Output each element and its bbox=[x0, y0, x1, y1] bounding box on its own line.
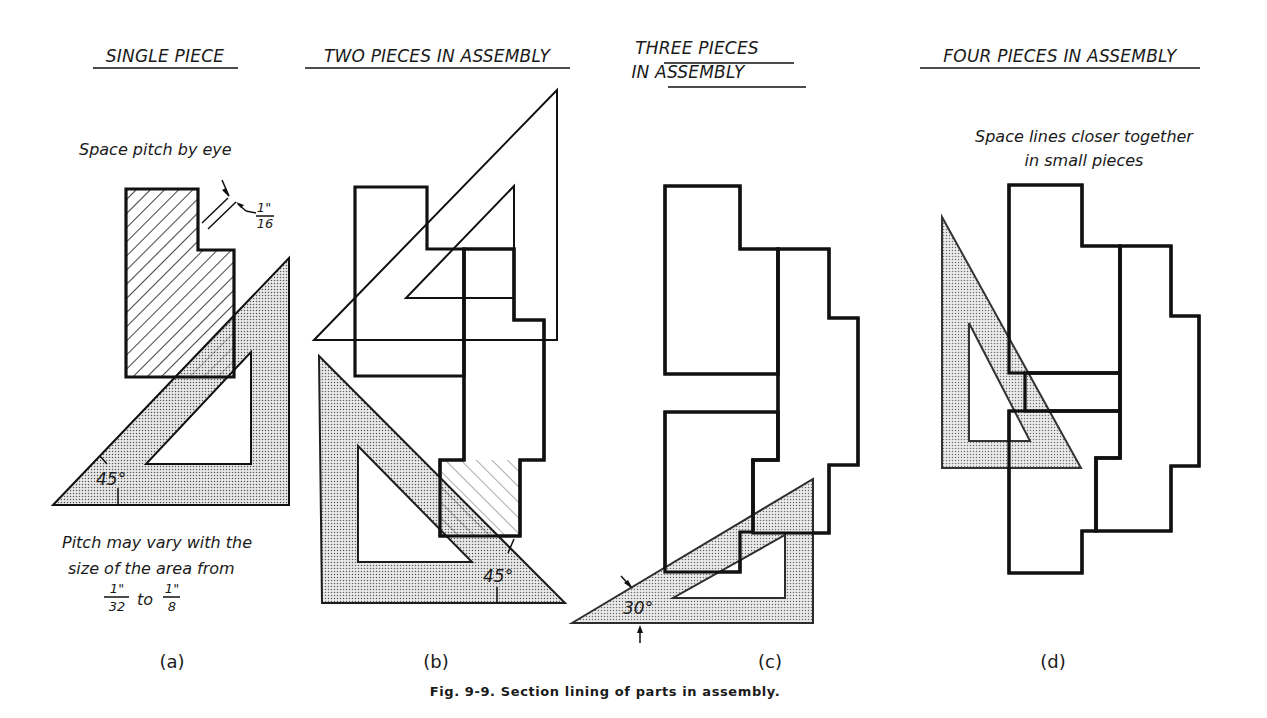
panel-a: SINGLE PIECE Space pitch by eye 1" 16 45… bbox=[53, 46, 289, 672]
60-degree-triangle bbox=[942, 217, 1081, 468]
angle-label: 45° bbox=[96, 469, 126, 489]
pitch-num: 1" bbox=[257, 200, 271, 215]
panel-label: (a) bbox=[159, 651, 184, 672]
callout-line: Space lines closer together bbox=[975, 127, 1194, 146]
footnote-line: Pitch may vary with the bbox=[62, 533, 252, 552]
triangle-outline bbox=[314, 90, 557, 340]
angle-label: 45° bbox=[483, 566, 513, 586]
callout-line: in small pieces bbox=[1025, 151, 1144, 170]
arrow-icon bbox=[222, 180, 229, 196]
pitch-range: 1" 32 to 1" 8 bbox=[104, 581, 180, 614]
panel-d-title: FOUR PIECES IN ASSEMBLY bbox=[943, 46, 1178, 66]
pitch-dimension: 1" 16 bbox=[202, 180, 274, 231]
hatched-part-3 bbox=[1009, 411, 1120, 573]
figure-caption: Fig. 9-9. Section lining of parts in ass… bbox=[430, 684, 781, 699]
hatched-part-1 bbox=[1009, 185, 1120, 373]
panel-label: (d) bbox=[1040, 651, 1065, 672]
svg-text:1": 1" bbox=[110, 581, 124, 596]
panel-a-title: SINGLE PIECE bbox=[106, 46, 224, 66]
panel-d: FOUR PIECES IN ASSEMBLY Space lines clos… bbox=[920, 46, 1200, 672]
panel-c-title-line-1: THREE PIECES bbox=[635, 38, 759, 58]
svg-text:to: to bbox=[137, 590, 153, 609]
hatched-part-2 bbox=[1096, 246, 1199, 531]
panel-b-title: TWO PIECES IN ASSEMBLY bbox=[324, 46, 552, 66]
svg-text:32: 32 bbox=[109, 599, 126, 614]
30-degree-triangle bbox=[572, 479, 813, 623]
panel-label: (c) bbox=[758, 651, 782, 672]
svg-text:1": 1" bbox=[165, 581, 179, 596]
panel-b: TWO PIECES IN ASSEMBLY 45° (b) bbox=[305, 46, 570, 672]
hatched-part-1 bbox=[665, 186, 778, 374]
panel-c: THREE PIECES IN ASSEMBLY 30° (c) bbox=[572, 38, 858, 672]
angle-label: 30° bbox=[623, 598, 653, 618]
panel-c-title-line-2: IN ASSEMBLY bbox=[631, 62, 746, 82]
panel-label: (b) bbox=[423, 651, 448, 672]
section-lining-figure: SINGLE PIECE Space pitch by eye 1" 16 45… bbox=[0, 0, 1267, 718]
pitch-callout: Space pitch by eye bbox=[79, 140, 232, 159]
svg-text:8: 8 bbox=[168, 599, 176, 614]
footnote-line: size of the area from bbox=[68, 559, 235, 578]
pitch-den: 16 bbox=[257, 216, 274, 231]
